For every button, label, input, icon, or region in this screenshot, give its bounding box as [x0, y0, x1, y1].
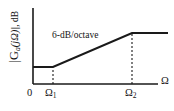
y-axis-label-magnitude: |G — [7, 51, 21, 63]
y-axis-label-argument: (jΩ)| — [9, 27, 20, 47]
x-tick-omega2-symbol: Ω — [125, 87, 133, 98]
x-tick-omega2-subscript: 2 — [133, 91, 137, 100]
y-axis-label: |Ga(jΩ)|, dB — [8, 0, 22, 74]
x-tick-omega1-subscript: 1 — [53, 91, 57, 100]
x-tick-label-origin: 0 — [27, 88, 32, 99]
y-axis-label-subscript: a — [13, 47, 22, 51]
x-tick-label-omega2: Ω2 — [125, 88, 137, 100]
y-axis-label-units: , dB — [10, 11, 20, 27]
x-tick-label-omega1: Ω1 — [45, 88, 57, 100]
bode-plot-figure: |Ga(jΩ)|, dB 6-dB/octave Ω 0 Ω1 Ω2 — [0, 0, 174, 111]
slope-annotation: 6-dB/octave — [52, 31, 98, 41]
x-tick-omega1-symbol: Ω — [45, 87, 53, 98]
x-axis-label: Ω — [161, 76, 169, 87]
